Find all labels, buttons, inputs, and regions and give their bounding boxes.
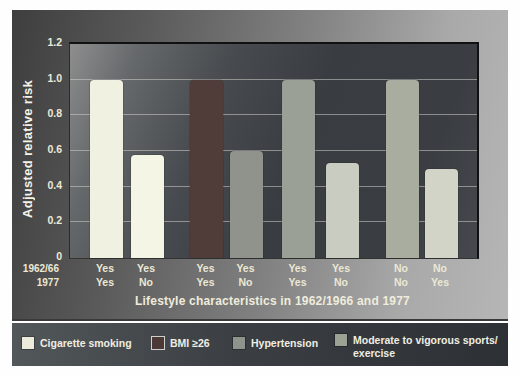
x-category-label: No — [321, 276, 361, 289]
bar — [230, 151, 263, 258]
y-tick-label: 1.0 — [22, 71, 62, 85]
y-tick-label: 0.8 — [22, 106, 62, 120]
bar — [386, 80, 419, 258]
legend-strip: Cigarette smokingBMI ≥26HypertensionMode… — [12, 323, 508, 366]
legend-swatch — [335, 334, 347, 346]
legend-label: Moderate to vigorous sports/exercise — [353, 334, 498, 360]
y-tick-label: 0.6 — [22, 142, 62, 156]
y-tick-label: 0.2 — [22, 213, 62, 227]
x-category-label: Yes — [186, 262, 226, 275]
legend-label: Hypertension — [251, 337, 318, 350]
legend-label: Cigarette smoking — [40, 337, 132, 350]
x-category-label: No — [126, 276, 166, 289]
x-row-header: 1962/66 — [13, 262, 59, 275]
x-category-label: No — [420, 262, 460, 275]
y-tick-label: 1.2 — [22, 35, 62, 49]
plot-area — [69, 42, 479, 259]
bar — [282, 80, 315, 258]
x-category-label: No — [381, 276, 421, 289]
x-category-label: Yes — [226, 262, 266, 275]
bar — [131, 155, 164, 258]
legend-item: BMI ≥26 — [152, 337, 210, 350]
x-category-label: Yes — [85, 276, 125, 289]
x-category-label: Yes — [420, 276, 460, 289]
legend-item: Moderate to vigorous sports/exercise — [335, 334, 498, 360]
figure-panel: Adjusted relative risk 00.20.40.60.81.01… — [12, 10, 508, 321]
legend-swatch — [233, 337, 245, 349]
bar — [326, 163, 359, 258]
legend-swatch — [22, 337, 34, 349]
legend-label: BMI ≥26 — [170, 337, 210, 350]
x-category-label: Yes — [321, 262, 361, 275]
legend-swatch — [152, 337, 164, 349]
x-category-label: Yes — [278, 276, 318, 289]
x-row-header: 1977 — [13, 276, 59, 289]
legend-item: Cigarette smoking — [22, 337, 132, 350]
x-axis-title: Lifestyle characteristics in 1962/1966 a… — [69, 294, 476, 308]
x-category-label: Yes — [85, 262, 125, 275]
bar — [190, 80, 223, 258]
y-tick-label: 0 — [22, 249, 62, 263]
y-tick-label: 0.4 — [22, 178, 62, 192]
x-category-label: No — [226, 276, 266, 289]
x-category-label: Yes — [126, 262, 166, 275]
x-category-label: Yes — [278, 262, 318, 275]
bar — [425, 169, 458, 258]
bar — [90, 80, 123, 258]
page: { "figure": { "y_axis_title": "Adjusted … — [0, 0, 520, 376]
x-category-label: Yes — [186, 276, 226, 289]
legend-item: Hypertension — [233, 337, 318, 350]
x-category-label: No — [381, 262, 421, 275]
